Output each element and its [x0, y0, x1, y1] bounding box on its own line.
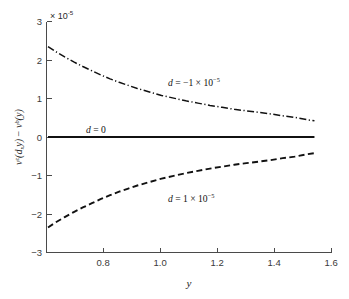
x-tick-label: 1.6 — [324, 257, 337, 268]
y-tick-label: 0 — [37, 132, 42, 143]
x-tickmarks — [103, 248, 331, 253]
multiplier-exponent: -5 — [68, 9, 74, 16]
x-tick-label: 1.2 — [210, 257, 223, 268]
y-tick-label: 2 — [37, 55, 42, 66]
annotation-d-zero: d = 0 — [86, 124, 106, 135]
x-axis-title: y — [186, 277, 192, 289]
y-tick-labels: 3 2 1 0 −1 −2 −3 — [31, 16, 42, 258]
y-tick-label: 1 — [37, 93, 42, 104]
curve-annotations: d = −1 × 10−5 d = 0 d = 1 × 10−5 — [86, 76, 220, 204]
chart-figure: 3 2 1 0 −1 −2 −3 0.8 1.0 1.2 1.4 1.6 × 1… — [0, 0, 349, 299]
ylabel-minus: − — [13, 128, 24, 139]
ylabel-arg1: (d,y) — [13, 138, 25, 158]
multiplier-base: × 10 — [50, 11, 68, 21]
ylabel-arg2: (y) — [13, 108, 25, 120]
line-chart: 3 2 1 0 −1 −2 −3 0.8 1.0 1.2 1.4 1.6 × 1… — [0, 0, 349, 299]
y-tick-label: 3 — [37, 16, 42, 27]
svg-text:vz(d,y) − vb(y): vz(d,y) − vb(y) — [13, 108, 26, 164]
x-tick-label: 1.4 — [267, 257, 280, 268]
annotation-d-positive: d = 1 × 10−5 — [168, 192, 214, 204]
y-tick-label: −2 — [31, 209, 42, 220]
svg-text:× 10-5: × 10-5 — [50, 9, 74, 21]
y-axis-multiplier: × 10-5 — [50, 9, 74, 21]
series-line-d-positive — [48, 153, 314, 227]
x-tick-label: 0.8 — [96, 257, 109, 268]
y-tick-label: −3 — [31, 247, 42, 258]
annotation-d-negative: d = −1 × 10−5 — [168, 76, 220, 88]
y-axis-title: vz(d,y) − vb(y) — [13, 108, 26, 164]
x-tick-label: 1.0 — [153, 257, 166, 268]
x-tick-labels: 0.8 1.0 1.2 1.4 1.6 — [96, 257, 337, 268]
y-tick-label: −1 — [31, 170, 42, 181]
